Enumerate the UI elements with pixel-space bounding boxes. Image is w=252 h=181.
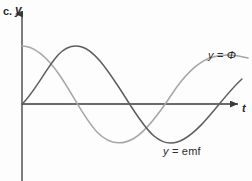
emf-label-value: emf xyxy=(182,145,201,157)
emf-label-equals: = xyxy=(169,145,182,157)
y-axis-label: y xyxy=(15,4,22,16)
physics-figure: c. y t y = Φ y = emf xyxy=(0,0,252,181)
flux-curve-label: y = Φ xyxy=(208,50,236,61)
flux-label-equals: = xyxy=(214,49,227,61)
t-axis-label: t xyxy=(242,103,246,114)
flux-label-value: Φ xyxy=(227,49,236,61)
plot-canvas xyxy=(0,0,252,181)
emf-curve-label: y = emf xyxy=(163,146,201,157)
part-label: c. xyxy=(3,6,12,17)
